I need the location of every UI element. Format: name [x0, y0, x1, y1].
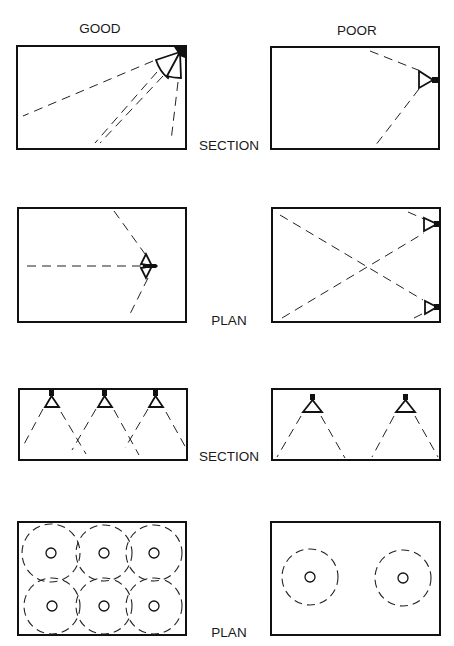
- row1-poor-section: [271, 47, 439, 149]
- ceiling-speaker-1: [45, 389, 59, 407]
- row4-poor-plan: [271, 522, 440, 635]
- coverage-circle: [22, 524, 80, 582]
- coverage-circle: [126, 525, 182, 581]
- column-heading-good: GOOD: [79, 21, 121, 36]
- coverage-circle: [76, 578, 132, 634]
- row-label-section-1: SECTION: [199, 138, 259, 153]
- coverage-circle: [76, 525, 132, 581]
- row-label-plan-2: PLAN: [211, 625, 246, 640]
- speaker-placement-diagram: GOOD POOR SECTION PLAN SECTION PLAN: [0, 0, 454, 646]
- row2-good-plan: [18, 208, 186, 322]
- row3-poor-section: [272, 389, 440, 460]
- ceiling-speaker-3: [149, 389, 163, 407]
- coverage-circle: [282, 549, 338, 605]
- speaker-icon: [419, 71, 438, 88]
- coverage-circle: [126, 578, 182, 634]
- speaker-cluster-icon: [141, 254, 158, 278]
- row-label-plan-1: PLAN: [211, 313, 246, 328]
- row2-poor-plan: [272, 208, 440, 322]
- speaker-cluster-icon: [156, 47, 185, 78]
- ceiling-speaker-1: [303, 394, 322, 412]
- row4-good-plan: [18, 522, 186, 635]
- speaker-icon-upper: [424, 218, 440, 231]
- column-heading-poor: POOR: [337, 23, 377, 38]
- ceiling-speaker-2: [98, 389, 112, 407]
- ceiling-speaker-2: [396, 394, 415, 412]
- row3-good-section: [19, 389, 187, 460]
- coverage-circle: [375, 550, 431, 606]
- coverage-circle: [24, 578, 80, 634]
- row1-good-section: [17, 46, 186, 149]
- row-label-section-2: SECTION: [199, 449, 259, 464]
- speaker-icon-lower: [425, 301, 440, 314]
